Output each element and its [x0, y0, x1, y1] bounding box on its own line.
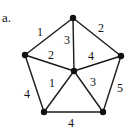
node-left	[22, 52, 28, 58]
edge-center-bottom_right	[74, 71, 103, 112]
weighted-graph: 1232413454	[0, 0, 134, 135]
node-bottom_left	[41, 109, 47, 115]
edge-weight-label: 5	[117, 81, 123, 95]
edge-right-center	[74, 56, 121, 71]
edge-weight-label: 1	[37, 25, 43, 39]
edge-weight-label: 3	[64, 33, 70, 47]
edge-top-right	[73, 18, 121, 56]
node-bottom_right	[100, 109, 106, 115]
edge-weight-label: 1	[49, 76, 55, 90]
edge-weight-label: 3	[90, 75, 96, 89]
edge-top-center	[73, 18, 74, 71]
node-top	[70, 15, 76, 21]
node-center	[71, 68, 77, 74]
node-right	[118, 53, 124, 59]
edge-weight-label: 2	[48, 48, 54, 62]
edge-left-bottom_left	[25, 55, 44, 112]
edge-weight-label: 4	[68, 116, 74, 130]
edge-weight-label: 4	[88, 49, 94, 63]
edge-weight-label: 4	[24, 87, 30, 101]
edge-weight-label: 2	[98, 21, 104, 35]
